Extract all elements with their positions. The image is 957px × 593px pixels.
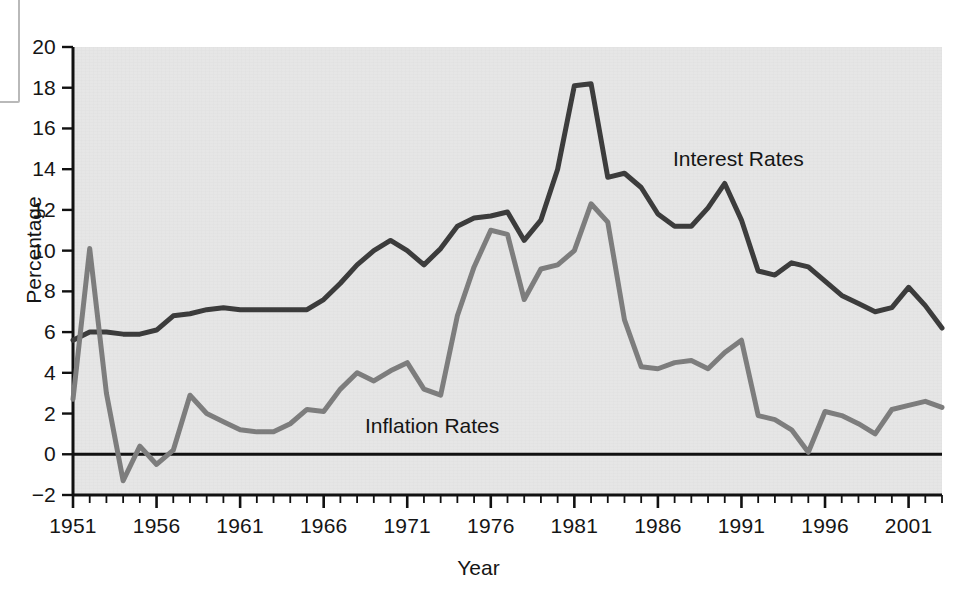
y-tick-label: 18 [10,77,56,98]
y-tick-label: 4 [10,362,56,383]
x-tick-label: 2001 [859,515,957,536]
chart-figure: −202468101214161820 19511956196119661971… [0,0,957,593]
x-axis-title: Year [0,556,957,580]
y-tick-label: 16 [10,117,56,138]
y-tick-label: 0 [10,443,56,464]
axes [62,47,942,508]
y-tick-label: 20 [10,36,56,57]
data-series [73,84,942,481]
series-label-interest-rates: Interest Rates [673,147,804,171]
y-axis-title: Percentage [22,170,46,330]
series-label-inflation-rates: Inflation Rates [365,414,499,438]
chart-canvas [0,0,957,593]
y-tick-label: −2 [10,484,56,505]
y-tick-label: 2 [10,403,56,424]
